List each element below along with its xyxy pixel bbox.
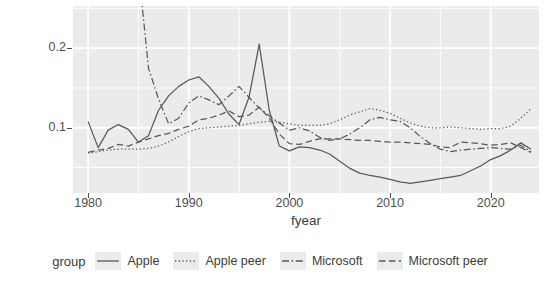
legend-label: Microsoft peer: [409, 254, 488, 268]
legend-title: group: [52, 254, 85, 269]
series-line-microsoft: [138, 6, 531, 152]
x-tick-label: 1980: [63, 196, 113, 210]
series-line-apple: [88, 44, 531, 183]
legend-item-apple-peer[interactable]: Apple peer: [173, 252, 265, 270]
x-axis-title: fyear: [73, 213, 539, 228]
legend: group AppleApple peerMicrosoftMicrosoft …: [0, 248, 554, 274]
y-tick-label: 0.1: [24, 120, 66, 134]
series-line-microsoft-peer: [88, 107, 531, 152]
y-tick-mark: [67, 48, 72, 49]
chart-root: rd_intensity3 0.10.2 fyear group AppleAp…: [0, 0, 554, 289]
legend-key-apple: [95, 252, 121, 270]
legend-label: Apple peer: [205, 254, 265, 268]
x-tick-mark: [390, 193, 391, 198]
legend-item-microsoft[interactable]: Microsoft: [280, 252, 363, 270]
x-tick-label: 1990: [164, 196, 214, 210]
legend-key-microsoft-peer: [377, 252, 403, 270]
legend-items: AppleApple peerMicrosoftMicrosoft peer: [95, 252, 501, 270]
x-tick-mark: [289, 193, 290, 198]
y-tick-label: 0.2: [24, 40, 66, 54]
legend-key-microsoft: [280, 252, 306, 270]
legend-item-apple[interactable]: Apple: [95, 252, 159, 270]
legend-label: Microsoft: [312, 254, 363, 268]
legend-key-apple-peer: [173, 252, 199, 270]
y-axis-labels: 0.10.2: [20, 0, 66, 200]
x-tick-label: 2020: [466, 196, 516, 210]
y-tick-mark: [67, 128, 72, 129]
plot-panel: [73, 6, 539, 193]
x-tick-label: 2010: [365, 196, 415, 210]
series-line-apple-peer: [88, 109, 531, 154]
legend-item-microsoft-peer[interactable]: Microsoft peer: [377, 252, 488, 270]
plot-svg: [73, 6, 539, 193]
x-tick-mark: [189, 193, 190, 198]
x-tick-mark: [88, 193, 89, 198]
legend-label: Apple: [127, 254, 159, 268]
x-tick-label: 2000: [264, 196, 314, 210]
x-tick-mark: [491, 193, 492, 198]
